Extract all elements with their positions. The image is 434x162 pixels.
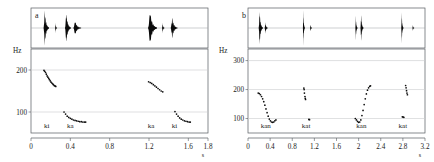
panel-b-letter: b bbox=[242, 11, 246, 20]
panel-a-x-unit-label: s bbox=[202, 152, 205, 158]
x-tick-label: 0.8 bbox=[288, 143, 297, 151]
syllable-label: ka bbox=[148, 122, 156, 130]
panel-b: 10020030000.40.81.21.622.42.83.2kankatka… bbox=[217, 0, 434, 162]
x-tick-label: 0.4 bbox=[266, 143, 275, 151]
y-tick-label: 200 bbox=[16, 67, 27, 75]
panel-b-pitch-plot: 10020030000.40.81.21.622.42.83.2kankatka… bbox=[233, 49, 430, 151]
x-tick-label: 1.6 bbox=[184, 143, 193, 151]
panel-a-svg: 10020000.40.81.21.61.8kikakaki Hz a s bbox=[0, 0, 217, 162]
y-tick-label: 200 bbox=[233, 86, 244, 94]
x-tick-label: 2.4 bbox=[376, 143, 385, 151]
syllable-label: ki bbox=[44, 122, 50, 130]
x-tick-label: 1.8 bbox=[204, 143, 213, 151]
y-tick-label: 100 bbox=[16, 109, 27, 117]
x-tick-label: 1.6 bbox=[332, 143, 341, 151]
figure-root: 10020000.40.81.21.61.8kikakaki Hz a s 10… bbox=[0, 0, 434, 162]
pitch-contour-f0-ki-1 bbox=[43, 70, 57, 88]
panel-a-pitch-plot: 10020000.40.81.21.61.8kikakaki bbox=[16, 49, 213, 151]
pitch-contour-f0-kat-2-lower bbox=[401, 116, 404, 118]
panel-b-x-unit-label: s bbox=[419, 152, 422, 158]
x-tick-label: 2.8 bbox=[398, 143, 407, 151]
syllable-label: kat bbox=[302, 122, 311, 130]
syllable-label: kan bbox=[261, 122, 272, 130]
x-tick-label: 0 bbox=[29, 143, 33, 151]
y-tick-label: 100 bbox=[233, 115, 244, 123]
syllable-label: kat bbox=[399, 122, 408, 130]
syllable-label: kan bbox=[356, 122, 367, 130]
pitch-contour-f0-ka-2 bbox=[148, 81, 164, 93]
panel-b-svg: 10020030000.40.81.21.622.42.83.2kankatka… bbox=[217, 0, 434, 162]
syllable-label: ka bbox=[67, 122, 75, 130]
pitch-contour-f0-kat-1-upper bbox=[303, 87, 306, 100]
panel-b-y-axis-label: Hz bbox=[219, 47, 227, 55]
x-tick-label: 0 bbox=[246, 143, 250, 151]
panel-a-letter: a bbox=[35, 11, 39, 20]
x-tick-label: 1.2 bbox=[310, 143, 319, 151]
panel-a-waveform-plot bbox=[31, 8, 208, 48]
x-tick-label: 0.4 bbox=[66, 143, 75, 151]
panel-b-waveform-plot bbox=[248, 8, 425, 48]
x-tick-label: 2 bbox=[357, 143, 361, 151]
panel-a: 10020000.40.81.21.61.8kikakaki Hz a s bbox=[0, 0, 217, 162]
x-tick-label: 3.2 bbox=[421, 143, 430, 151]
syllable-label: ki bbox=[172, 122, 178, 130]
y-tick-label: 300 bbox=[233, 57, 244, 65]
x-tick-label: 1.2 bbox=[145, 143, 154, 151]
x-tick-label: 0.8 bbox=[105, 143, 114, 151]
pitch-contour-f0-kat-1-lower bbox=[308, 119, 310, 121]
pitch-contour-f0-kat-2-upper bbox=[405, 85, 408, 96]
panel-a-y-axis-label: Hz bbox=[13, 47, 21, 55]
pitch-contour-f0-kan-2 bbox=[354, 85, 371, 123]
